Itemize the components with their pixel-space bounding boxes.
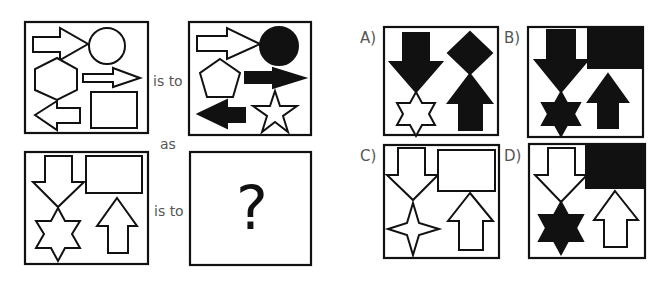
down-arrow-shape <box>33 156 84 207</box>
option-d[interactable] <box>529 144 645 258</box>
circle-shape <box>89 28 125 64</box>
panel-source-result <box>189 22 311 135</box>
question-mark: ? <box>236 178 268 238</box>
star-shape <box>253 91 297 132</box>
hexagon-shape <box>35 58 77 100</box>
rectangle-shape <box>438 150 495 191</box>
right-arrow-shape <box>197 28 260 59</box>
up-arrow-shape <box>97 198 137 253</box>
option-a[interactable] <box>384 27 498 136</box>
thin-right-arrow-shape <box>83 68 140 87</box>
as-label: as <box>160 137 176 151</box>
option-b[interactable] <box>528 27 643 137</box>
six-point-star-shape <box>36 208 80 261</box>
filled-rectangle-shape <box>588 28 642 68</box>
option-c[interactable] <box>384 145 499 258</box>
right-arrow-shape <box>33 28 88 60</box>
is-to-label-bottom: is to <box>154 204 184 218</box>
rectangle-shape <box>86 156 142 193</box>
filled-left-arrow-shape <box>198 100 245 128</box>
rectangle-shape <box>91 92 137 128</box>
panel-source <box>25 22 148 133</box>
filled-right-arrow-shape <box>245 68 305 88</box>
option-b-label[interactable]: B) <box>504 31 520 46</box>
filled-circle-shape <box>260 27 298 65</box>
option-a-label[interactable]: A) <box>360 31 376 46</box>
pentagon-shape <box>200 59 240 97</box>
is-to-label-top: is to <box>153 74 183 88</box>
option-d-label[interactable]: D) <box>504 149 521 164</box>
option-c-label[interactable]: C) <box>360 149 376 164</box>
panel-target <box>25 152 148 264</box>
left-arrow-shape <box>35 101 80 130</box>
filled-rectangle-shape <box>586 145 644 188</box>
puzzle-canvas <box>0 0 661 286</box>
